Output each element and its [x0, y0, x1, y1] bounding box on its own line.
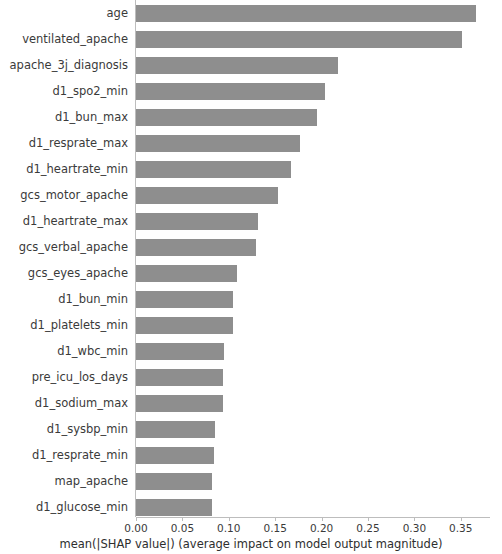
y-tick-label-d1_glucose_min: d1_glucose_min	[0, 499, 128, 516]
x-axis-spine	[136, 517, 490, 518]
y-tick-label-d1_resprate_min: d1_resprate_min	[0, 447, 128, 464]
x-tick-mark-0.35	[461, 517, 462, 521]
x-tick-label-0.00: 0.00	[116, 522, 156, 534]
x-tick-label-0.30: 0.30	[394, 522, 434, 534]
bar-fill	[136, 499, 212, 516]
y-tick-label-d1_spo2_min: d1_spo2_min	[0, 83, 128, 100]
bar-d1_bun_max	[136, 109, 317, 126]
y-tick-label-d1_sysbp_min: d1_sysbp_min	[0, 421, 128, 438]
bar-fill	[136, 239, 256, 256]
bar-fill	[136, 421, 215, 438]
y-axis-spine	[135, 0, 136, 517]
bar-gcs_motor_apache	[136, 187, 278, 204]
bar-fill	[136, 447, 214, 464]
x-axis-title: mean(|SHAP value|) (average impact on mo…	[0, 537, 502, 551]
shap-feature-importance-chart: ageventilated_apacheapache_3j_diagnosisd…	[0, 0, 502, 554]
bar-fill	[136, 83, 325, 100]
y-tick-label-d1_heartrate_max: d1_heartrate_max	[0, 213, 128, 230]
bar-gcs_eyes_apache	[136, 265, 237, 282]
x-tick-label-0.10: 0.10	[209, 522, 249, 534]
y-tick-label-d1_heartrate_min: d1_heartrate_min	[0, 161, 128, 178]
x-tick-label-0.20: 0.20	[302, 522, 342, 534]
bar-d1_heartrate_max	[136, 213, 258, 230]
bar-fill	[136, 5, 476, 22]
bar-fill	[136, 109, 317, 126]
y-tick-label-d1_wbc_min: d1_wbc_min	[0, 343, 128, 360]
bar-d1_bun_min	[136, 291, 233, 308]
bar-map_apache	[136, 473, 212, 490]
y-tick-label-ventilated_apache: ventilated_apache	[0, 31, 128, 48]
bar-d1_spo2_min	[136, 83, 325, 100]
bar-d1_resprate_max	[136, 135, 300, 152]
y-tick-label-d1_sodium_max: d1_sodium_max	[0, 395, 128, 412]
y-tick-label-gcs_eyes_apache: gcs_eyes_apache	[0, 265, 128, 282]
bar-d1_sodium_max	[136, 395, 223, 412]
x-tick-mark-0.25	[368, 517, 369, 521]
bar-fill	[136, 317, 233, 334]
bar-fill	[136, 395, 223, 412]
bar-ventilated_apache	[136, 31, 462, 48]
bar-fill	[136, 135, 300, 152]
x-tick-mark-0.10	[229, 517, 230, 521]
bar-fill	[136, 31, 462, 48]
x-tick-mark-0.20	[322, 517, 323, 521]
x-tick-label-0.35: 0.35	[441, 522, 481, 534]
bar-fill	[136, 213, 258, 230]
y-tick-label-map_apache: map_apache	[0, 473, 128, 490]
y-tick-label-apache_3j_diagnosis: apache_3j_diagnosis	[0, 57, 128, 74]
y-tick-label-d1_bun_max: d1_bun_max	[0, 109, 128, 126]
bar-fill	[136, 473, 212, 490]
bar-d1_heartrate_min	[136, 161, 291, 178]
x-tick-mark-0.30	[414, 517, 415, 521]
bar-d1_glucose_min	[136, 499, 212, 516]
bar-fill	[136, 161, 291, 178]
x-tick-mark-0.05	[182, 517, 183, 521]
y-tick-label-age: age	[0, 5, 128, 22]
bar-d1_sysbp_min	[136, 421, 215, 438]
bar-fill	[136, 369, 223, 386]
y-tick-label-pre_icu_los_days: pre_icu_los_days	[0, 369, 128, 386]
bar-fill	[136, 265, 237, 282]
bar-d1_resprate_min	[136, 447, 214, 464]
x-tick-mark-0.00	[136, 517, 137, 521]
bar-apache_3j_diagnosis	[136, 57, 338, 74]
bar-pre_icu_los_days	[136, 369, 223, 386]
y-tick-label-gcs_motor_apache: gcs_motor_apache	[0, 187, 128, 204]
x-tick-label-0.05: 0.05	[162, 522, 202, 534]
bar-d1_platelets_min	[136, 317, 233, 334]
x-tick-label-0.25: 0.25	[348, 522, 388, 534]
y-tick-label-d1_resprate_max: d1_resprate_max	[0, 135, 128, 152]
bar-fill	[136, 187, 278, 204]
bar-age	[136, 5, 476, 22]
y-tick-label-gcs_verbal_apache: gcs_verbal_apache	[0, 239, 128, 256]
x-tick-label-0.15: 0.15	[255, 522, 295, 534]
bar-fill	[136, 343, 224, 360]
bar-d1_wbc_min	[136, 343, 224, 360]
bar-gcs_verbal_apache	[136, 239, 256, 256]
bar-fill	[136, 57, 338, 74]
x-tick-mark-0.15	[275, 517, 276, 521]
y-tick-label-d1_platelets_min: d1_platelets_min	[0, 317, 128, 334]
bar-fill	[136, 291, 233, 308]
y-tick-label-d1_bun_min: d1_bun_min	[0, 291, 128, 308]
